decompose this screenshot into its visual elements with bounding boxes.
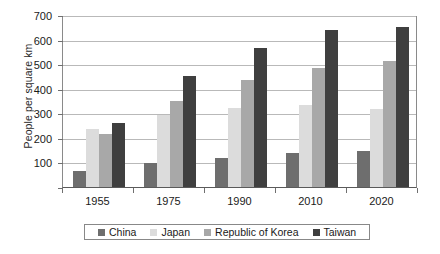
x-tick-label: 1990 <box>210 195 270 207</box>
bar <box>183 76 196 187</box>
x-tick-mark <box>204 188 205 193</box>
bar <box>357 151 370 187</box>
bar-group <box>63 16 134 187</box>
bar <box>157 115 170 187</box>
bar-chart: People per square km 1002003004005006007… <box>0 0 440 254</box>
bar <box>254 48 267 187</box>
bar <box>325 30 338 187</box>
bar <box>286 153 299 187</box>
y-tick-label: 500 <box>24 60 52 70</box>
y-tick-label: 300 <box>24 109 52 119</box>
bar <box>99 134 112 187</box>
bar-group <box>347 16 418 187</box>
y-tick-label: 600 <box>24 36 52 46</box>
x-tick-mark <box>62 188 63 193</box>
legend-item[interactable]: Republic of Korea <box>204 226 298 238</box>
x-tick-mark <box>417 188 418 193</box>
x-tick-mark <box>133 188 134 193</box>
x-tick-label: 2010 <box>281 195 341 207</box>
legend-swatch <box>313 229 320 236</box>
y-tick-label: 200 <box>24 134 52 144</box>
legend-swatch <box>98 229 105 236</box>
bar <box>312 68 325 187</box>
legend-label: Taiwan <box>324 226 357 238</box>
x-tick-mark <box>346 188 347 193</box>
y-tick-label: 100 <box>24 158 52 168</box>
bar <box>144 163 157 187</box>
bar <box>396 27 409 187</box>
legend-label: China <box>109 226 136 238</box>
bar <box>112 123 125 187</box>
x-tick-label: 1955 <box>68 195 128 207</box>
plot-area <box>62 16 417 188</box>
bar-group <box>276 16 347 187</box>
bar-group <box>205 16 276 187</box>
bar <box>299 105 312 187</box>
y-tick-label: 400 <box>24 85 52 95</box>
bar <box>370 109 383 187</box>
legend-item[interactable]: Taiwan <box>313 226 357 238</box>
bar <box>215 158 228 187</box>
bar <box>383 61 396 187</box>
legend-label: Republic of Korea <box>215 226 298 238</box>
x-tick-mark <box>275 188 276 193</box>
bar <box>228 108 241 187</box>
chart-legend: ChinaJapanRepublic of KoreaTaiwan <box>84 224 370 240</box>
bar <box>170 101 183 187</box>
y-tick-label: 700 <box>24 11 52 21</box>
x-tick-label: 1975 <box>139 195 199 207</box>
legend-label: Japan <box>161 226 190 238</box>
bar <box>86 129 99 187</box>
legend-swatch <box>204 229 211 236</box>
legend-item[interactable]: Japan <box>150 226 190 238</box>
bar-group <box>134 16 205 187</box>
legend-swatch <box>150 229 157 236</box>
x-tick-label: 2020 <box>352 195 412 207</box>
bar <box>241 80 254 187</box>
bar <box>73 171 86 187</box>
legend-item[interactable]: China <box>98 226 136 238</box>
